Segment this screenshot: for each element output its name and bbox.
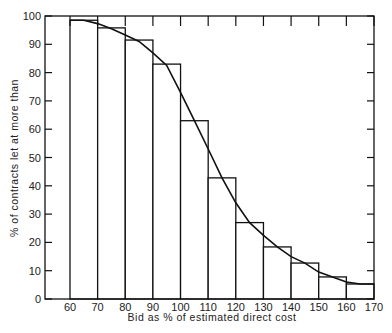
y-tick-label: 10 xyxy=(29,265,41,277)
y-tick-label: 70 xyxy=(29,95,41,107)
y-axis-title: % of contracts let at more than xyxy=(8,79,20,237)
cumulative-bid-histogram: 0102030405060708090100 60708090100110120… xyxy=(0,0,392,333)
bar xyxy=(70,20,98,299)
y-tick-label: 50 xyxy=(29,152,41,164)
bar xyxy=(291,263,319,299)
y-tick-label: 30 xyxy=(29,208,41,220)
y-tick-label: 40 xyxy=(29,180,41,192)
y-tick-label: 0 xyxy=(35,293,41,305)
y-tick-label: 90 xyxy=(29,38,41,50)
x-tick-label: 160 xyxy=(337,301,355,313)
bar xyxy=(125,40,153,299)
bar xyxy=(236,223,264,299)
bar xyxy=(346,284,374,299)
x-tick-label: 60 xyxy=(64,301,76,313)
y-tick-label: 100 xyxy=(23,10,41,22)
y-tick-label: 60 xyxy=(29,123,41,135)
x-tick-label: 70 xyxy=(92,301,104,313)
x-tick-label: 150 xyxy=(310,301,328,313)
bar xyxy=(263,247,291,299)
bar xyxy=(98,28,126,299)
y-tick-label: 20 xyxy=(29,236,41,248)
bar xyxy=(181,121,209,299)
x-axis-title: Bid as % of estimated direct cost xyxy=(128,311,297,323)
bar xyxy=(153,64,181,299)
histogram-bars xyxy=(70,20,374,299)
x-tick-label: 170 xyxy=(365,301,383,313)
y-tick-label: 80 xyxy=(29,67,41,79)
